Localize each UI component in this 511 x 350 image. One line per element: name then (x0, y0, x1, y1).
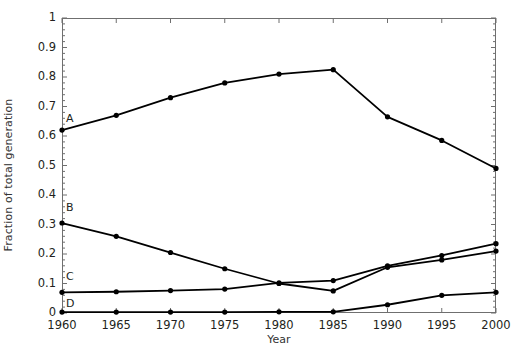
data-point (439, 138, 444, 143)
data-point (168, 250, 173, 255)
data-point (385, 114, 390, 119)
data-point (59, 290, 64, 295)
data-point (385, 302, 390, 307)
data-point (493, 241, 498, 246)
data-point (114, 113, 119, 118)
x-tick-label: 1985 (305, 318, 361, 332)
data-point (59, 220, 64, 225)
data-point (493, 166, 498, 171)
series-label-c: C (66, 270, 74, 283)
y-tick-label: 0.9 (14, 40, 56, 54)
data-point (331, 67, 336, 72)
y-tick-label: 0.2 (14, 246, 56, 260)
chart-canvas (0, 0, 511, 350)
data-point (385, 263, 390, 268)
data-point (276, 280, 281, 285)
data-point (222, 310, 227, 315)
data-point (493, 248, 498, 253)
x-tick-label: 1995 (414, 318, 470, 332)
x-tick-label: 1990 (360, 318, 416, 332)
data-point (114, 310, 119, 315)
x-tick-label: 1980 (251, 318, 307, 332)
data-point (222, 287, 227, 292)
data-point (331, 288, 336, 293)
data-point (168, 310, 173, 315)
x-tick-label: 1970 (143, 318, 199, 332)
series-line-c (59, 241, 498, 295)
data-point (439, 293, 444, 298)
x-tick-label: 1965 (88, 318, 144, 332)
data-point (59, 128, 64, 133)
y-tick-label: 0.8 (14, 69, 56, 83)
data-point (114, 234, 119, 239)
data-point (331, 278, 336, 283)
series-label-b: B (66, 201, 74, 214)
x-tick-label: 1960 (34, 318, 90, 332)
y-tick-label: 0.5 (14, 158, 56, 172)
series-label-a: A (66, 112, 74, 125)
y-tick-label: 0.7 (14, 99, 56, 113)
y-tick-label: 0.3 (14, 217, 56, 231)
x-tick-label: 1975 (197, 318, 253, 332)
data-point (222, 80, 227, 85)
data-point (439, 253, 444, 258)
y-tick-label: 0 (14, 305, 56, 319)
data-point (59, 310, 64, 315)
y-tick-label: 0.6 (14, 128, 56, 142)
series-label-d: D (66, 297, 74, 310)
data-point (168, 288, 173, 293)
data-point (114, 289, 119, 294)
y-tick-label: 0.4 (14, 187, 56, 201)
data-point (168, 95, 173, 100)
data-point (439, 257, 444, 262)
data-point (331, 309, 336, 314)
data-point (222, 266, 227, 271)
y-tick-label: 0.1 (14, 276, 56, 290)
y-tick-label: 1 (14, 10, 56, 24)
series-line-a (59, 67, 498, 171)
series-line-d (59, 290, 498, 315)
data-point (493, 290, 498, 295)
chart-figure: Fraction of total generation Year 00.10.… (0, 0, 511, 350)
data-point (276, 71, 281, 76)
x-tick-label: 2000 (468, 318, 511, 332)
data-point (276, 309, 281, 314)
